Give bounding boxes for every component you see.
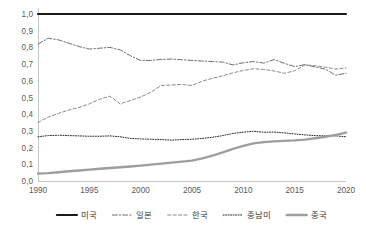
y-tick-label: 0,1	[22, 160, 34, 169]
x-tick-label: 2010	[234, 186, 253, 195]
x-tick-label: 2015	[286, 186, 305, 195]
y-tick-label: 0,9	[22, 27, 34, 36]
y-tick-label: 0,2	[22, 144, 34, 153]
x-tick-label: 1990	[29, 186, 48, 195]
legend-label: 미국	[81, 210, 97, 220]
line-chart: 0,00,10,20,30,40,50,60,70,80,91,0 199019…	[0, 0, 366, 231]
y-tick-label: 0,0	[22, 177, 34, 186]
legend-label: 한국	[192, 210, 208, 220]
chart-background	[0, 0, 366, 231]
legend-label: 일본	[136, 210, 152, 220]
y-tick-label: 0,5	[22, 94, 34, 103]
y-tick-label: 0,8	[22, 43, 34, 52]
x-tick-label: 2020	[337, 186, 356, 195]
y-tick-label: 0,7	[22, 60, 34, 69]
x-tick-label: 2005	[183, 186, 202, 195]
legend-label: 중남미	[247, 210, 271, 220]
y-tick-label: 0,6	[22, 77, 34, 86]
x-tick-label: 1995	[80, 186, 99, 195]
x-tick-label: 2000	[132, 186, 151, 195]
y-tick-label: 0,4	[22, 110, 34, 119]
legend-label: 중국	[311, 210, 327, 220]
y-tick-label: 1,0	[22, 10, 34, 19]
y-tick-label: 0,3	[22, 127, 34, 136]
chart-canvas: 0,00,10,20,30,40,50,60,70,80,91,0 199019…	[0, 0, 366, 231]
